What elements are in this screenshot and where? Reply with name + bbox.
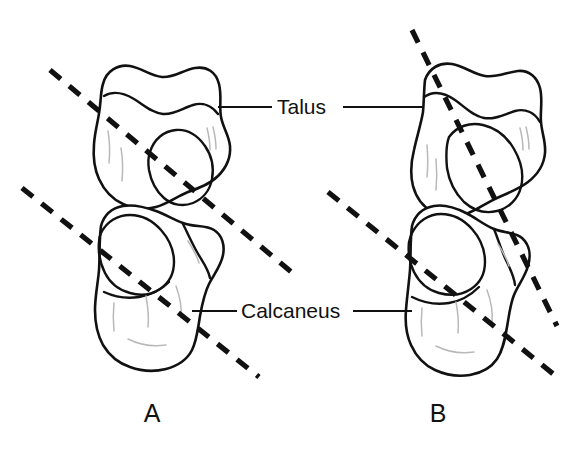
label-group-talus: Talus (218, 95, 424, 118)
panel-b-talus-shade-1 (427, 145, 428, 177)
panel-a-calcaneus-shade-1 (113, 303, 114, 331)
panel-b-talus-shade-2 (436, 159, 437, 190)
panel-b-calcaneus-shade-1 (421, 308, 422, 336)
label-group-calcaneus: Calcaneus (192, 299, 412, 322)
panel-a-letter: A (144, 399, 161, 427)
calcaneus-label: Calcaneus (241, 299, 340, 322)
panel-b-talus-outline (411, 64, 545, 217)
talus-label: Talus (277, 95, 326, 118)
figure-canvas: A (0, 0, 585, 449)
panel-a: A (22, 66, 296, 427)
panel-b: B (328, 30, 557, 427)
anatomy-figure: A (0, 0, 585, 449)
panel-b-letter: B (430, 399, 447, 427)
